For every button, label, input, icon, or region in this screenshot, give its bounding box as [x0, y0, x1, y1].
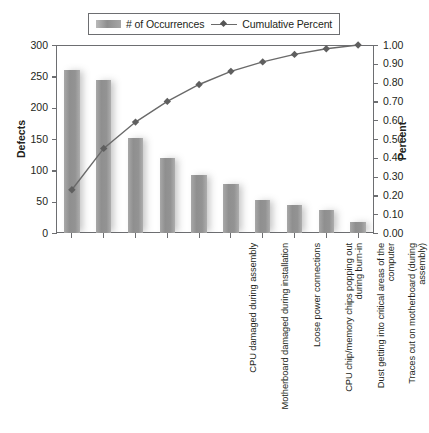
y-axis-right-tick-label: 0.80	[383, 77, 423, 88]
y-axis-right-tick-label: 0.90	[383, 58, 423, 69]
y-axis-right-tick-label: 0.60	[383, 115, 423, 126]
x-axis-category-label: Loose power connections	[312, 243, 322, 415]
y-axis-left-tick-label: 100	[8, 165, 48, 176]
bar	[96, 80, 112, 233]
y-axis-right-tick-label: 0.30	[383, 171, 423, 182]
x-axis-tick-mark	[103, 233, 104, 238]
x-axis-tick-mark	[326, 233, 327, 238]
bar	[319, 210, 335, 233]
legend-label-cumulative: Cumulative Percent	[242, 18, 332, 30]
x-axis-tick-mark	[135, 233, 136, 238]
y-axis-left-tick-label: 50	[8, 196, 48, 207]
pareto-chart: # of Occurrences Cumulative Percent Defe…	[0, 0, 429, 433]
bar	[64, 70, 80, 233]
x-axis-tick-mark	[358, 233, 359, 238]
bar	[160, 158, 176, 233]
bar	[191, 175, 207, 233]
y-axis-right-tick-label: 1.00	[383, 40, 423, 51]
y-axis-left-tick-label: 200	[8, 102, 48, 113]
x-axis-category-label: Traces cut on motherboard (during assemb…	[407, 243, 428, 415]
y-axis-left-tick-label: 0	[8, 228, 48, 239]
x-axis-tick-mark	[262, 233, 263, 238]
line-diamond-icon	[211, 20, 237, 29]
bars-layer	[56, 45, 374, 233]
legend-item-cumulative: Cumulative Percent	[211, 18, 332, 30]
y-axis-left-tick-mark	[52, 233, 57, 234]
y-axis-right-tick-label: 0.70	[383, 96, 423, 107]
bar	[287, 205, 303, 233]
y-axis-right-tick-label: 0.40	[383, 152, 423, 163]
y-axis-left-tick-label: 150	[8, 134, 48, 145]
y-axis-right-tick-mark	[373, 233, 378, 234]
y-axis-right-tick-label: 0.50	[383, 134, 423, 145]
x-axis-tick-mark	[167, 233, 168, 238]
bar	[255, 200, 271, 233]
x-axis-category-label: CPU chip/memory chips popping out during…	[344, 243, 365, 415]
bar-swatch-icon	[96, 20, 121, 28]
legend-label-occurrences: # of Occurrences	[126, 18, 204, 30]
y-axis-left-tick-label: 250	[8, 71, 48, 82]
legend-item-occurrences: # of Occurrences	[96, 18, 204, 30]
bar	[350, 222, 366, 233]
y-axis-left-tick-label: 300	[8, 40, 48, 51]
x-axis-category-label: CPU damaged during assembly	[248, 243, 258, 415]
bar	[128, 138, 144, 233]
x-axis-tick-mark	[71, 233, 72, 238]
bar	[223, 184, 239, 233]
chart-legend: # of Occurrences Cumulative Percent	[88, 13, 340, 35]
x-axis-tick-mark	[294, 233, 295, 238]
y-axis-right-tick-label: 0.00	[383, 228, 423, 239]
x-axis-tick-mark	[230, 233, 231, 238]
x-axis-category-label: Dust getting into critical areas of the …	[376, 243, 397, 415]
y-axis-right-tick-label: 0.10	[383, 209, 423, 220]
x-axis-tick-mark	[199, 233, 200, 238]
x-axis-category-label: Motherboard damaged during installation	[280, 243, 290, 415]
y-axis-right-tick-label: 0.20	[383, 190, 423, 201]
